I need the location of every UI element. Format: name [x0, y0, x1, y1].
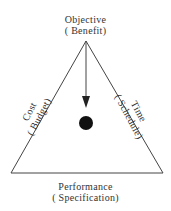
performance-subtitle: ( Specification) [0, 192, 171, 203]
arrow-head-icon [82, 96, 90, 108]
objective-title: Objective [0, 14, 171, 25]
objective-subtitle: ( Benefit) [0, 25, 171, 36]
center-marker [79, 116, 93, 130]
performance-label: Performance ( Specification) [0, 181, 171, 203]
triangle-diagram: Objective ( Benefit) Cost ( Budget) Time… [0, 0, 171, 211]
performance-title: Performance [0, 181, 171, 192]
objective-label: Objective ( Benefit) [0, 14, 171, 36]
